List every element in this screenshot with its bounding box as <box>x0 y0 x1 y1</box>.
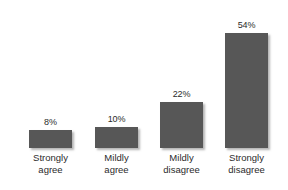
bar-category-label: Mildly agree <box>81 152 152 175</box>
bar <box>160 102 203 148</box>
bar <box>225 33 268 148</box>
bar-value-label: 54% <box>215 20 278 30</box>
bar <box>95 127 138 148</box>
bar-value-label: 22% <box>150 89 213 99</box>
bar-value-label: 10% <box>85 114 148 124</box>
bar-value-label: 8% <box>19 117 82 127</box>
plot-area: 8% Strongly agree 10% Mildly agree 22% M… <box>0 0 288 190</box>
bar <box>29 130 72 148</box>
bar-category-label: Mildly disagree <box>146 152 217 175</box>
bar-category-label: Strongly disagree <box>211 152 282 175</box>
bar-category-label: Strongly agree <box>15 152 86 175</box>
bar-chart: 8% Strongly agree 10% Mildly agree 22% M… <box>0 0 288 190</box>
